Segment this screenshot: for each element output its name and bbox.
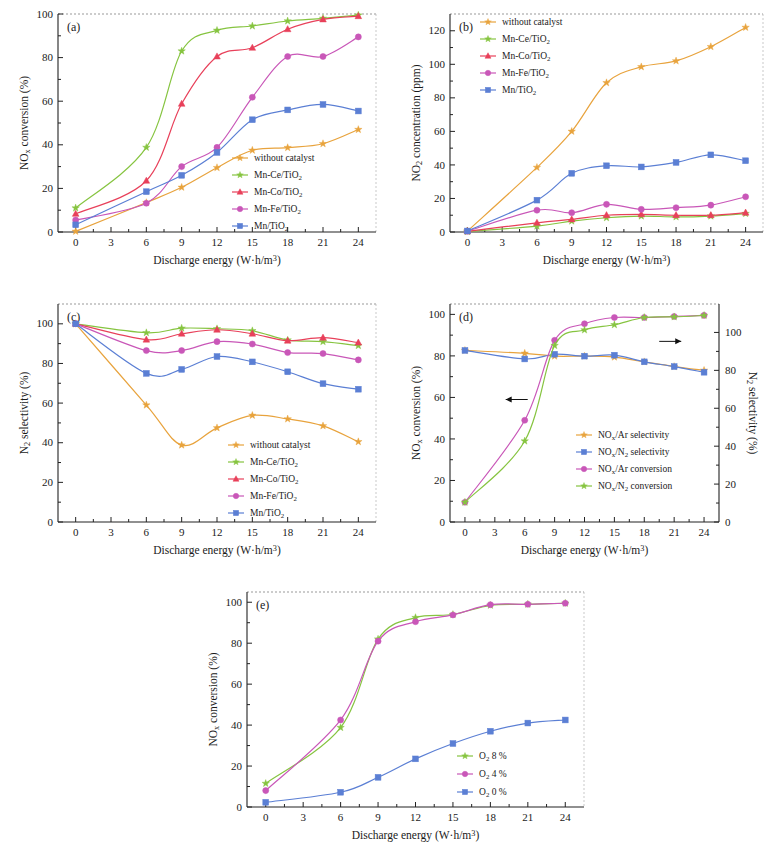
data-point bbox=[462, 348, 468, 354]
y-tick-label: 100 bbox=[226, 596, 243, 608]
data-point bbox=[701, 369, 707, 375]
x-tick-label: 0 bbox=[73, 236, 79, 248]
x-tick-label: 9 bbox=[179, 526, 185, 538]
x-tick-label: 9 bbox=[552, 526, 558, 538]
series-group bbox=[461, 312, 708, 506]
data-point bbox=[214, 53, 221, 59]
data-point bbox=[562, 717, 568, 723]
y-tick-label: 40 bbox=[42, 138, 54, 150]
data-point bbox=[249, 146, 256, 153]
legend-label: NOx/Ar selectivity bbox=[598, 430, 669, 441]
x-tick-label: 21 bbox=[522, 811, 533, 823]
data-point bbox=[249, 94, 255, 100]
data-point bbox=[638, 206, 644, 212]
data-point bbox=[249, 22, 256, 29]
data-point bbox=[179, 164, 185, 170]
x-tick-label: 3 bbox=[108, 526, 114, 538]
data-point bbox=[214, 354, 220, 360]
data-point bbox=[213, 26, 220, 33]
data-point bbox=[707, 43, 714, 50]
data-point bbox=[214, 339, 220, 345]
legend-label: without catalyst bbox=[254, 153, 315, 163]
data-point bbox=[284, 144, 291, 151]
x-tick-label: 6 bbox=[522, 526, 528, 538]
y-right-tick-label: 20 bbox=[725, 478, 737, 490]
legend-label: without catalyst bbox=[502, 17, 563, 27]
x-tick-label: 15 bbox=[447, 811, 459, 823]
y-tick-label: 100 bbox=[37, 8, 54, 20]
legend-label: O2 0 % bbox=[479, 787, 507, 798]
data-point bbox=[249, 117, 255, 123]
data-point bbox=[72, 227, 79, 234]
data-point bbox=[263, 788, 269, 794]
y-axis-right-title: N2 selectivity (%) bbox=[745, 372, 759, 455]
legend-label: Mn-Co/TiO2 bbox=[502, 51, 551, 62]
data-point bbox=[638, 63, 645, 70]
x-tick-label: 6 bbox=[144, 526, 150, 538]
data-point bbox=[143, 370, 149, 376]
legend-label: Mn-Fe/TiO2 bbox=[250, 491, 297, 502]
figure-container: 02040608010003691215182124Discharge ener… bbox=[0, 0, 777, 859]
panel-label: (b) bbox=[459, 20, 473, 34]
legend-label: NOx/N2 conversion bbox=[598, 481, 672, 492]
data-point bbox=[143, 200, 149, 206]
y-axis-title: N2 selectivity (%) bbox=[18, 371, 32, 454]
y-tick-label: 40 bbox=[231, 719, 243, 731]
y-tick-label: 40 bbox=[434, 433, 446, 445]
panel-a: 02040608010003691215182124Discharge ener… bbox=[0, 0, 390, 290]
series-line bbox=[76, 15, 359, 208]
x-tick-label: 24 bbox=[353, 526, 365, 538]
legend-marker bbox=[233, 441, 240, 447]
x-tick-label: 21 bbox=[705, 236, 716, 248]
data-point bbox=[412, 619, 418, 625]
x-tick-label: 15 bbox=[247, 526, 259, 538]
legend-marker bbox=[233, 510, 238, 515]
legend-marker bbox=[462, 771, 467, 776]
x-tick-label: 21 bbox=[318, 236, 329, 248]
data-point bbox=[743, 194, 749, 200]
x-axis-title: Discharge energy (W·h/m3) bbox=[543, 254, 671, 267]
y-tick-label: 60 bbox=[42, 95, 54, 107]
legend-marker bbox=[462, 789, 467, 794]
x-tick-label: 6 bbox=[534, 236, 540, 248]
x-tick-label: 9 bbox=[375, 811, 381, 823]
y-axis-title: NOx conversion (%) bbox=[410, 366, 424, 460]
data-point bbox=[673, 205, 679, 211]
data-point bbox=[673, 160, 679, 166]
data-point bbox=[487, 728, 493, 734]
data-point bbox=[638, 164, 644, 170]
chart-a: 02040608010003691215182124Discharge ener… bbox=[0, 0, 390, 290]
data-point bbox=[320, 53, 326, 59]
x-tick-label: 3 bbox=[492, 526, 498, 538]
x-tick-label: 24 bbox=[699, 526, 711, 538]
x-tick-label: 9 bbox=[569, 236, 575, 248]
legend-label: Mn/TiO2 bbox=[250, 508, 285, 519]
data-point bbox=[611, 321, 618, 328]
y-tick-label: 100 bbox=[37, 317, 54, 329]
data-point bbox=[604, 163, 610, 169]
legend-label: Mn-Co/TiO2 bbox=[254, 187, 303, 198]
y-tick-label: 80 bbox=[434, 350, 446, 362]
series-group bbox=[262, 599, 569, 805]
data-point bbox=[487, 602, 493, 608]
data-point bbox=[179, 172, 185, 178]
x-tick-label: 3 bbox=[108, 236, 114, 248]
data-point bbox=[355, 357, 361, 363]
data-point bbox=[551, 342, 558, 349]
y-axis-title: NO2 concentration (ppm) bbox=[410, 64, 424, 181]
y-tick-label: 0 bbox=[237, 801, 243, 813]
data-point bbox=[672, 57, 679, 64]
x-tick-label: 21 bbox=[318, 526, 329, 538]
data-point bbox=[249, 341, 255, 347]
panel-b: 02040608010012003691215182124Discharge e… bbox=[388, 0, 777, 290]
x-axis-title: Discharge energy (W·h/m3) bbox=[521, 544, 649, 557]
data-point bbox=[338, 789, 344, 795]
data-point bbox=[73, 321, 79, 327]
data-point bbox=[338, 717, 344, 723]
x-tick-label: 12 bbox=[579, 526, 590, 538]
y-tick-label: 80 bbox=[42, 357, 54, 369]
axis-pointer-left bbox=[506, 397, 528, 403]
legend-marker bbox=[485, 18, 492, 24]
legend: without catalystMn-Ce/TiO2Mn-Co/TiO2Mn-F… bbox=[232, 153, 315, 232]
data-point bbox=[582, 353, 588, 359]
